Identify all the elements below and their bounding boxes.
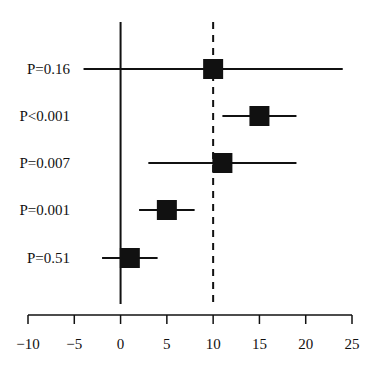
x-tick-label: 15 xyxy=(252,336,267,352)
point-estimate-square xyxy=(212,153,232,173)
forest-row: P=0.16 xyxy=(27,59,343,79)
x-tick-label: 0 xyxy=(117,336,125,352)
x-tick-label: 10 xyxy=(206,336,221,352)
x-tick-label: −10 xyxy=(16,336,39,352)
forest-rows: P=0.16P<0.001P=0.007P=0.001P=0.51 xyxy=(19,59,342,268)
x-tick-label: 5 xyxy=(163,336,171,352)
x-axis: −10−50510152025 xyxy=(16,315,359,352)
forest-row: P=0.001 xyxy=(19,200,194,220)
point-estimate-square xyxy=(203,59,223,79)
row-label: P=0.007 xyxy=(19,155,70,171)
row-label: P<0.001 xyxy=(19,108,70,124)
forest-row: P=0.51 xyxy=(27,248,158,268)
point-estimate-square xyxy=(120,248,140,268)
forest-row: P<0.001 xyxy=(19,106,296,126)
x-tick-label: 20 xyxy=(298,336,313,352)
point-estimate-square xyxy=(157,200,177,220)
point-estimate-square xyxy=(249,106,269,126)
row-label: P=0.001 xyxy=(19,202,70,218)
x-tick-label: 25 xyxy=(345,336,360,352)
forest-row: P=0.007 xyxy=(19,153,296,173)
x-tick-label: −5 xyxy=(66,336,82,352)
forest-plot: P=0.16P<0.001P=0.007P=0.001P=0.51 −10−50… xyxy=(0,0,374,376)
row-label: P=0.51 xyxy=(27,250,70,266)
row-label: P=0.16 xyxy=(27,61,71,77)
